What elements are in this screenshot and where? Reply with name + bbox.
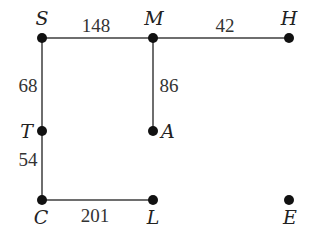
edge-weight-s-m: 148 (82, 15, 111, 36)
node-m (148, 33, 158, 43)
node-s (37, 33, 47, 43)
edge-weight-m-h: 42 (216, 15, 235, 36)
node-label-s: S (35, 7, 48, 29)
node-label-t: T (20, 120, 34, 142)
node-label-h: H (280, 7, 298, 29)
edge-weight-c-l: 201 (81, 205, 110, 226)
node-label-c: C (34, 206, 49, 228)
node-label-e: E (282, 206, 297, 228)
edge-weight-s-t: 68 (19, 75, 38, 96)
weighted-graph-diagram: 148 42 68 86 54 201 S M H T A C L E (0, 0, 310, 246)
node-e (284, 195, 294, 205)
node-h (284, 33, 294, 43)
node-c (37, 195, 47, 205)
node-label-a: A (159, 120, 175, 142)
node-label-l: L (146, 206, 160, 228)
edge-weight-m-a: 86 (160, 75, 179, 96)
node-a (148, 126, 158, 136)
edge-weight-t-c: 54 (19, 149, 39, 170)
node-t (37, 126, 47, 136)
node-l (148, 195, 158, 205)
node-label-m: M (143, 7, 164, 29)
